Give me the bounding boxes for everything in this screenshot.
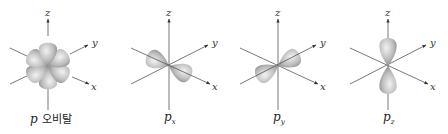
z-axis-label: z (44, 7, 51, 18)
caption-subscript: y (281, 118, 285, 126)
x-axis-label: x (91, 81, 97, 92)
caption-symbol: p (164, 110, 172, 124)
panel-p-orbitals: z y x (10, 7, 98, 110)
y-axis-label: y (429, 37, 436, 48)
x-axis-label: x (320, 81, 326, 92)
z-axis-label: z (384, 7, 391, 18)
x-axis-label: x (212, 81, 218, 92)
caption-pz: pz (383, 110, 394, 126)
panel-py: z y x (240, 7, 326, 110)
y-axis-label: y (319, 37, 326, 48)
caption-py: py (273, 110, 285, 126)
y-axis-label: y (211, 37, 218, 48)
caption-subscript: x (172, 118, 176, 126)
caption-subscript: z (391, 118, 395, 126)
caption-px: px (164, 110, 176, 126)
caption-symbol: p (30, 112, 38, 126)
caption-symbol: p (383, 110, 391, 124)
caption-p-orbital: p오비탈 (30, 110, 72, 126)
caption-text: 오비탈 (42, 113, 72, 126)
y-axis-label: y (91, 37, 98, 48)
panel-pz: z y x (350, 7, 436, 110)
panel-px: z y x (131, 7, 218, 110)
z-axis-label: z (274, 7, 281, 18)
caption-symbol: p (273, 110, 281, 124)
z-axis-label: z (165, 7, 172, 18)
x-axis-label: x (430, 81, 436, 92)
